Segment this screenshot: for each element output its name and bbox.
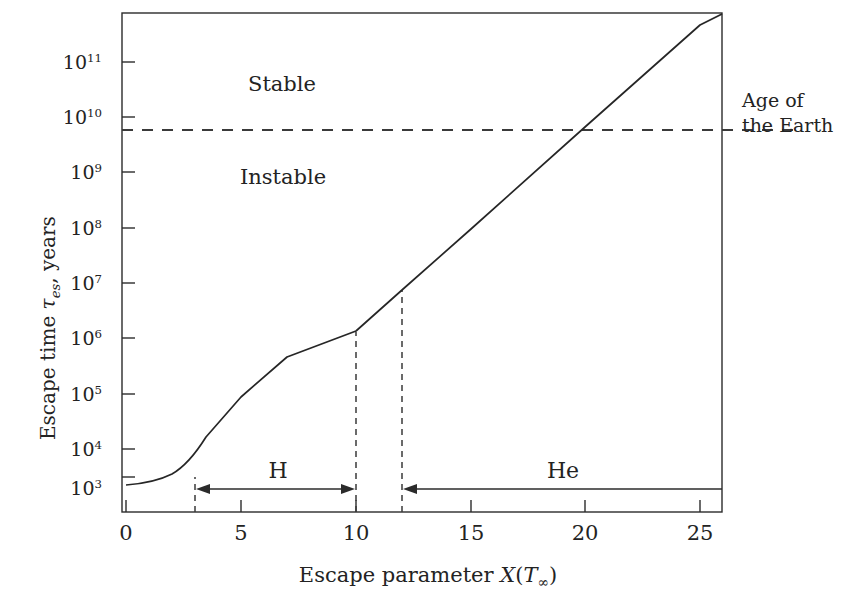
annotation-age-of-the-earth: Age of the Earth <box>742 88 833 138</box>
xtick-label-25: 25 <box>687 521 714 545</box>
ytick-label-1e6: 106 <box>18 327 102 349</box>
annotation-h: H <box>268 458 287 483</box>
ytick-label-1e3: 103 <box>18 477 102 499</box>
plot-canvas <box>0 0 856 609</box>
y-axis-ticks <box>122 62 135 477</box>
annotation-instable: Instable <box>240 165 326 189</box>
xtick-label-20: 20 <box>572 521 599 545</box>
ytick-label-1e8: 108 <box>18 217 102 239</box>
ytick-label-1e4: 104 <box>18 438 102 460</box>
xtick-label-5: 5 <box>234 521 247 545</box>
ytick-label-1e5: 105 <box>18 383 102 405</box>
ytick-label-1e9: 109 <box>18 161 102 183</box>
age-of-earth-line1: Age of <box>742 88 833 113</box>
range-arrow-h <box>196 484 355 494</box>
plot-frame <box>122 13 722 512</box>
y-axis-label: Escape time τes, years <box>36 216 60 440</box>
ytick-label-1e10: 1010 <box>18 106 102 128</box>
x-axis-ticks <box>126 500 700 512</box>
xtick-label-15: 15 <box>458 521 485 545</box>
annotation-he: He <box>547 458 579 483</box>
figure-escape-time-chart: 1011 1010 109 108 107 106 105 104 103 0 … <box>0 0 856 609</box>
xtick-label-0: 0 <box>119 521 132 545</box>
age-of-earth-line2: the Earth <box>742 113 833 138</box>
xtick-label-10: 10 <box>343 521 370 545</box>
range-arrow-he <box>403 484 722 494</box>
x-axis-label: Escape parameter X(T∞) <box>299 563 557 587</box>
ytick-label-1e11: 1011 <box>18 51 102 73</box>
annotation-stable: Stable <box>248 72 316 96</box>
escape-time-curve <box>126 14 722 485</box>
